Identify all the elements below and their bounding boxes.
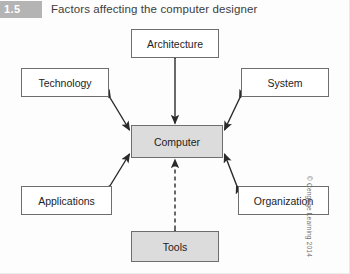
node-architecture-label: Architecture — [147, 38, 203, 50]
node-applications: Applications — [21, 186, 112, 215]
edge-technology-computer — [111, 99, 130, 131]
edge-organization-computer — [225, 154, 237, 185]
node-architecture: Architecture — [131, 29, 219, 58]
edge-system-computer — [225, 99, 240, 131]
edge-applications-computer — [111, 154, 130, 185]
node-tools-label: Tools — [163, 241, 188, 253]
node-applications-label: Applications — [38, 195, 95, 207]
node-computer: Computer — [131, 125, 223, 158]
node-organization: Organization — [238, 186, 329, 215]
node-computer-label: Computer — [154, 136, 200, 148]
node-system: System — [241, 68, 329, 97]
node-system-label: System — [267, 77, 302, 89]
node-technology: Technology — [21, 68, 109, 97]
node-technology-label: Technology — [38, 77, 91, 89]
node-tools: Tools — [131, 231, 219, 262]
copyright-notice: © Cengage Learning 2014 — [306, 176, 313, 260]
node-organization-label: Organization — [254, 195, 314, 207]
figure-page: 1.5 Factors affecting the computer desig… — [0, 0, 350, 274]
